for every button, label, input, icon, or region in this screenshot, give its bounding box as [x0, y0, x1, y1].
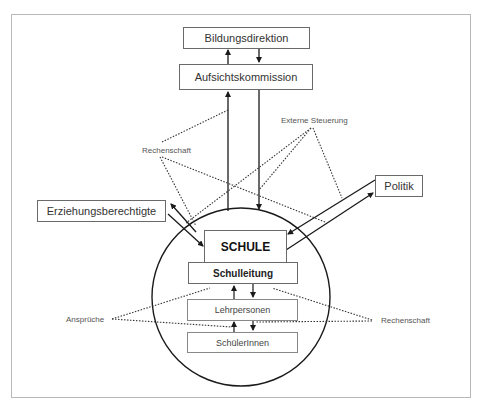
node-label: Schulleitung — [213, 268, 273, 279]
node-bildungsdirektion: Bildungsdirektion — [183, 27, 310, 49]
node-lehrpersonen: Lehrpersonen — [187, 299, 298, 321]
arrow-schule-to-politik — [286, 193, 373, 250]
node-label: Politik — [384, 180, 413, 192]
node-schulleitung: Schulleitung — [188, 262, 298, 284]
node-aufsichtskommission: Aufsichtskommission — [179, 64, 313, 90]
node-label: SchülerInnen — [216, 338, 269, 348]
externe-steuerung-dotted-lines — [186, 128, 342, 223]
label-externe-steuerung: Externe Steuerung — [281, 116, 348, 125]
label-rechenschaft-right: Rechenschaft — [381, 316, 430, 325]
node-erziehungsberechtigte: Erziehungsberechtigte — [37, 200, 166, 222]
node-label: Erziehungsberechtigte — [47, 205, 156, 217]
node-politik: Politik — [375, 175, 423, 197]
label-ansprueche: Ansprüche — [66, 315, 104, 324]
node-schule: SCHULE — [204, 230, 287, 263]
label-rechenschaft-top: Rechenschaft — [142, 146, 191, 155]
node-label: Lehrpersonen — [215, 305, 271, 315]
node-label: Aufsichtskommission — [195, 71, 298, 83]
node-label: SCHULE — [221, 240, 270, 254]
arrow-politik-to-schule — [288, 180, 375, 234]
node-label: Bildungsdirektion — [205, 32, 289, 44]
node-schuelerinnen: SchülerInnen — [187, 332, 298, 353]
